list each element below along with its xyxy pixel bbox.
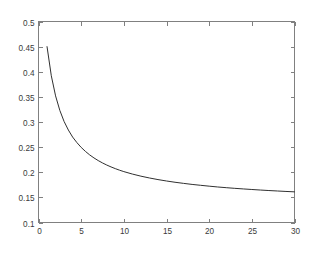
x-tick-label: 5 <box>79 227 84 236</box>
line-chart: 0510152025300.10.150.20.250.30.350.40.45… <box>0 0 311 257</box>
figure-container: 0510152025300.10.150.20.250.30.350.40.45… <box>0 0 311 257</box>
x-tick-label: 10 <box>120 227 130 236</box>
x-tick-label: 30 <box>291 227 301 236</box>
y-tick-label: 0.15 <box>19 194 35 203</box>
figure-background <box>0 0 311 257</box>
x-tick-label: 25 <box>248 227 258 236</box>
y-tick-label: 0.4 <box>23 69 35 78</box>
x-tick-label: 0 <box>37 227 42 236</box>
y-tick-label: 0.5 <box>23 19 35 28</box>
y-tick-label: 0.1 <box>23 220 35 229</box>
y-tick-label: 0.45 <box>19 44 35 53</box>
y-tick-label: 0.25 <box>19 144 35 153</box>
y-tick-label: 0.3 <box>23 119 35 128</box>
y-tick-label: 0.35 <box>19 94 35 103</box>
y-tick-label: 0.2 <box>23 169 35 178</box>
x-tick-label: 20 <box>205 227 215 236</box>
x-tick-label: 15 <box>163 227 173 236</box>
